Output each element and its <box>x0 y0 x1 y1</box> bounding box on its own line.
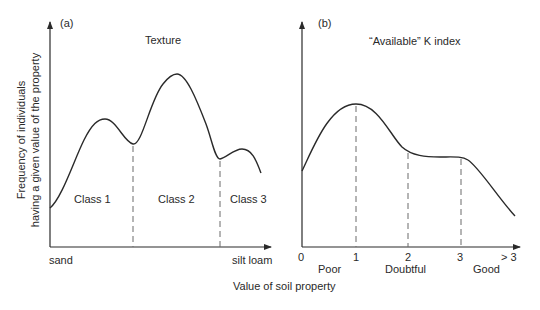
panel-a-title: Texture <box>145 34 181 46</box>
y-axis-label-line-1: Frequency of individuals <box>15 80 27 199</box>
panel-b-tick-2: 2 <box>405 251 411 263</box>
y-axis-label: Frequency of individuals having a given … <box>15 52 41 227</box>
diagram-canvas: (a) Texture Class 1 Class 2 Class 3 sand… <box>0 0 540 310</box>
panel-a-x-start-label: sand <box>49 254 73 266</box>
panel-a-class-2-label: Class 2 <box>158 193 195 205</box>
panel-a-class-1-label: Class 1 <box>74 193 111 205</box>
panel-a: (a) Texture Class 1 Class 2 Class 3 sand… <box>49 17 272 266</box>
y-axis-label-line-2: having a given value of the property <box>29 52 41 227</box>
panel-b-tick-0: 0 <box>298 251 304 263</box>
panel-b-title: “Available” K index <box>369 35 461 47</box>
panel-b-tick-3: 3 <box>457 251 463 263</box>
panel-b-category-doubtful: Doubtful <box>385 263 426 275</box>
panel-b-tick-gt3: > 3 <box>501 251 517 263</box>
panel-b-tag: (b) <box>318 17 331 29</box>
panel-b-k-index-curve <box>302 104 515 216</box>
panel-b: (b) “Available” K index 0 1 2 3 > 3 Poor… <box>298 17 520 275</box>
panel-b-category-good: Good <box>473 263 500 275</box>
panel-a-class-3-label: Class 3 <box>230 193 267 205</box>
panel-a-x-end-label: silt loam <box>232 254 272 266</box>
x-axis-label: Value of soil property <box>233 280 336 292</box>
panel-a-texture-curve <box>50 74 261 208</box>
panel-b-tick-1: 1 <box>353 251 359 263</box>
panel-b-category-poor: Poor <box>318 263 342 275</box>
panel-a-tag: (a) <box>60 17 73 29</box>
